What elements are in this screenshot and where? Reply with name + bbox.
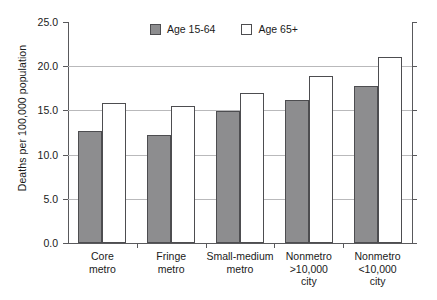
x-tick-label-line: <10,000 — [343, 263, 412, 276]
y-tick-mark — [412, 110, 417, 111]
x-tick-mark — [274, 243, 275, 248]
bar-groups — [68, 22, 412, 243]
x-tick-label: Nonmetro<10,000city — [343, 250, 412, 298]
bar-group — [137, 22, 206, 243]
x-tick-mark — [206, 243, 207, 248]
y-tick-label: 15.0 — [16, 104, 58, 116]
chart-figure: Deaths per 100,000 population 0.05.010.0… — [0, 0, 437, 300]
x-tick-label: Coremetro — [68, 250, 137, 298]
y-tick-label: 10.0 — [16, 149, 58, 161]
x-tick-label: Fringemetro — [137, 250, 206, 298]
legend-label: Age 15-64 — [167, 23, 215, 35]
bar — [285, 100, 309, 243]
x-tick-label-line: metro — [206, 263, 275, 276]
x-tick-mark — [343, 243, 344, 248]
x-tick-label-line: city — [343, 275, 412, 288]
bar — [240, 93, 264, 243]
x-axis-tick-labels: CoremetroFringemetroSmall-mediummetroNon… — [68, 250, 412, 298]
y-tick-mark — [412, 66, 417, 67]
bar-group-bars — [206, 22, 275, 243]
x-tick-label-line: Fringe — [137, 250, 206, 263]
y-tick-mark — [63, 243, 68, 244]
plot-area — [68, 22, 412, 243]
y-tick-label: 25.0 — [16, 16, 58, 28]
bar — [354, 86, 378, 243]
legend-swatch-open-icon — [241, 24, 252, 35]
bar — [102, 103, 126, 243]
x-tick-label-line: metro — [137, 263, 206, 276]
bar-group-bars — [343, 22, 412, 243]
y-tick-label: 0.0 — [16, 237, 58, 249]
bar-group-bars — [274, 22, 343, 243]
y-tick-mark — [412, 243, 417, 244]
legend-item-age-65-plus: Age 65+ — [241, 23, 297, 35]
bar-group — [68, 22, 137, 243]
y-axis-title: Deaths per 100,000 population — [16, 18, 28, 218]
y-tick-mark — [412, 155, 417, 156]
bar — [171, 106, 195, 243]
bar-group — [274, 22, 343, 243]
x-tick-mark — [137, 243, 138, 248]
bar-group-bars — [68, 22, 137, 243]
x-tick-label-line: Nonmetro — [343, 250, 412, 263]
legend-swatch-filled-icon — [150, 24, 161, 35]
bar — [78, 131, 102, 243]
chart-legend: Age 15-64 Age 65+ — [150, 23, 298, 35]
y-tick-mark — [412, 199, 417, 200]
bar-group — [343, 22, 412, 243]
legend-label: Age 65+ — [258, 23, 297, 35]
x-tick-label-line: metro — [68, 263, 137, 276]
y-tick-label: 20.0 — [16, 60, 58, 72]
legend-item-age-15-64: Age 15-64 — [150, 23, 215, 35]
x-tick-label-line: city — [274, 275, 343, 288]
bar — [147, 135, 171, 243]
x-tick-label-line: Core — [68, 250, 137, 263]
bar — [216, 111, 240, 243]
x-tick-label: Nonmetro>10,000city — [274, 250, 343, 298]
y-tick-label: 5.0 — [16, 193, 58, 205]
x-tick-label-line: >10,000 — [274, 263, 343, 276]
x-axis-line — [68, 243, 412, 244]
bar — [378, 57, 402, 243]
x-tick-label: Small-mediummetro — [206, 250, 275, 298]
x-tick-label-line: Small-medium — [206, 250, 275, 263]
cropped-caption — [70, 296, 400, 300]
y-tick-mark — [412, 22, 417, 23]
bar — [309, 76, 333, 243]
x-tick-label-line: Nonmetro — [274, 250, 343, 263]
bar-group — [206, 22, 275, 243]
bar-group-bars — [137, 22, 206, 243]
y-axis-right-line — [412, 22, 413, 243]
